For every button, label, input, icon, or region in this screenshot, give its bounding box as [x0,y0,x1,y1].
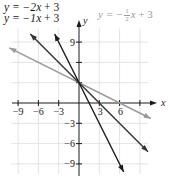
eq3-prefix: y = − [98,8,123,20]
arrow-head-end-icon [118,165,123,172]
coordinate-plane: xy −9−6−3369−3−6−9 [0,0,170,184]
eq3-suffix: + 3 [136,8,153,20]
eq2-suffix: + 3 [41,12,59,24]
eq3-denominator: 2 [124,16,130,23]
x-tick-label: −9 [13,106,24,117]
arrow-head-end-icon [143,113,150,118]
equation-label-3: y = −12x + 3 [98,8,153,23]
y-tick-label: −3 [64,118,75,129]
fraction-one-half: 12 [124,8,130,23]
y-axis-label: y [82,15,88,26]
x-axis-arrow-icon [150,101,157,106]
arrow-head-start-icon [9,48,16,53]
x-tick-label: −3 [53,106,64,117]
grid-lines [11,29,148,174]
y-axis-arrow-icon [77,20,82,27]
y-tick-label: −9 [64,158,75,169]
y-tick-label: −6 [64,138,75,149]
x-axis-label: x [160,97,166,108]
x-tick-label: 6 [118,106,123,117]
arrow-head-start-icon [55,34,60,41]
eq2-prefix: y = −1 [4,12,36,24]
line-series-2 [30,34,148,152]
x-tick-label: −6 [33,106,44,117]
equation-label-2: y = −1x + 3 [4,12,59,24]
x-tick-label: 3 [98,106,103,117]
y-tick-label: 9 [70,37,75,48]
